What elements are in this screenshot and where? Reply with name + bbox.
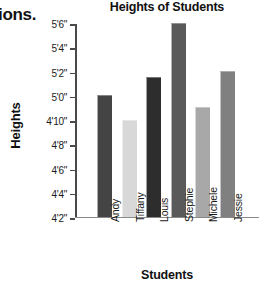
bar-louis[interactable] [146,77,161,216]
x-tick-label-stephie: Stephie [183,207,195,222]
plot-area: 4'2"4'4"4'6"4'8"4'10"5'0"5'2"5'4"5'6" [75,24,259,218]
y-tick-mark [70,218,75,220]
y-tick-label: 4'2" [52,213,67,224]
y-tick-label: 5'4" [52,43,67,54]
y-tick-label: 5'0" [52,91,67,102]
y-tick-label: 4'4" [52,188,67,199]
chart-title: Heights of Students [75,1,259,15]
x-tick-label-jessie: Jessie [232,207,244,222]
y-tick-label: 5'6" [52,19,67,30]
bar-series [75,24,259,217]
y-tick-label: 4'6" [52,164,67,175]
x-axis-tick-labels: AndyTiffanyLouisStephieMicheleJessie [75,222,259,268]
x-tick-label-tiffany: Tiffany [134,207,146,222]
y-tick-label: 5'2" [52,67,67,78]
y-tick-label: 4'8" [52,140,67,151]
x-tick-label-andy: Andy [109,207,121,222]
x-axis-title: Students [75,268,259,282]
y-tick-label: 4'10" [46,116,67,127]
x-tick-label-michele: Michele [207,207,219,222]
x-tick-label-louis: Louis [158,207,170,222]
y-axis-title: Heights [8,91,23,161]
page-edge-text-fragment: ions. [0,6,36,23]
chart-page: ions. Heights of Students Heights 4'2"4'… [0,0,259,292]
